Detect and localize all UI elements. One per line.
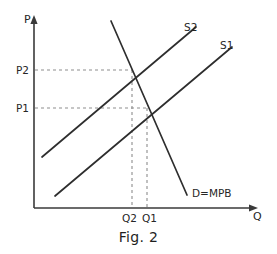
quantity-tick-label-q2: Q2	[122, 212, 137, 224]
quantity-tick-label-q1: Q1	[142, 212, 157, 224]
price-axis-arrowhead	[30, 15, 37, 24]
demand-curve-dmpb	[111, 21, 187, 195]
figure-caption: Fig. 2	[0, 229, 277, 245]
supply-curve-s2-label: S2	[184, 21, 197, 33]
price-axis-title: P	[24, 13, 31, 26]
demand-curve-dmpb-label: D=MPB	[192, 187, 231, 199]
quantity-axis-title: Q	[253, 210, 262, 223]
supply-curve-s1-label: S1	[220, 39, 233, 51]
price-tick-label-p2: P2	[16, 64, 29, 76]
figure-container: P Q S1 S2 D=MPB P2 P1 Q2 Q1 Fig. 2	[0, 0, 277, 254]
supply-curve-s1	[55, 47, 232, 196]
supply-curve-s2	[42, 27, 196, 157]
supply-demand-diagram: P Q S1 S2 D=MPB P2 P1 Q2 Q1	[0, 0, 277, 254]
price-tick-label-p1: P1	[16, 102, 29, 114]
